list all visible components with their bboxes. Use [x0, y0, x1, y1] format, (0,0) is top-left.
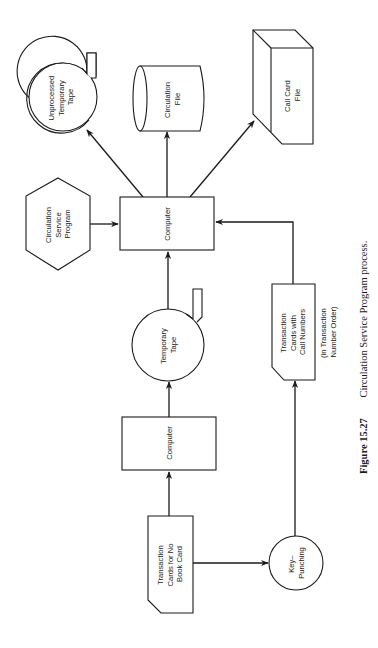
node-label-line: Key– — [287, 555, 296, 573]
node-label-line: Temporary — [159, 328, 168, 364]
node-label-line: Cards with — [289, 315, 298, 351]
svg-text:(in Transaction Number O: (in Transaction Number Order) — [319, 306, 338, 358]
disk-storage-icon — [140, 66, 204, 131]
node-label-line: File — [293, 89, 302, 101]
svg-text:Circulation Service: Circulation Service Program — [44, 205, 72, 243]
edge-computer-main-to-unprocessed-tape — [87, 130, 143, 197]
node-label-line: Tape — [169, 337, 178, 353]
node-computer-first: Computer — [122, 417, 216, 470]
node-label-line: Punching — [297, 547, 306, 579]
edge-cards-call-numbers-to-computer-main — [216, 222, 293, 284]
node-label-line: Circulation — [44, 207, 53, 243]
node-cards-no-book: Transaction Cards for No Book Card — [148, 516, 193, 613]
node-note-line: Number Order) — [329, 306, 338, 358]
node-label-line: Call Numbers — [298, 309, 307, 355]
svg-text:Transaction Cards with: Transaction Cards with Call Numbers — [279, 309, 307, 355]
node-label-line: Transaction — [156, 545, 165, 584]
edge-computer-main-to-call-card-file — [190, 121, 254, 197]
node-computer-main: Computer — [120, 197, 214, 250]
caption-number: Figure 15.27 — [358, 418, 369, 474]
node-label-line: File — [173, 93, 182, 105]
manual-operation-circle — [269, 536, 323, 590]
node-label-line: Computer — [163, 207, 172, 241]
node-label-line: Transaction — [279, 313, 288, 352]
node-label-line: Circulation — [163, 82, 172, 118]
node-cards-call-numbers: Transaction Cards with Call Numbers (in … — [272, 284, 338, 380]
node-note-line: (in Transaction — [319, 308, 328, 358]
node-call-card-file: Call Card File — [253, 30, 313, 144]
node-label-line: Program — [63, 209, 72, 238]
node-label-line: Computer — [165, 426, 174, 460]
node-label-line: Call Card — [283, 80, 292, 112]
node-unprocessed-tape: Unprocessed Temporary Tape — [17, 36, 97, 133]
node-label-line: Service — [54, 212, 63, 237]
node-label-line: Temporary — [57, 80, 66, 116]
svg-text:Figure 15.27 Circulation: Figure 15.27 Circulation Service Program… — [358, 241, 369, 474]
caption-text: Circulation Service Program process. — [358, 241, 369, 398]
node-label-line: Cards for No — [166, 544, 175, 587]
node-label-line: Tape — [66, 89, 75, 105]
node-label-line: Book Card — [175, 546, 184, 582]
flowchart-diagram: Unprocessed Temporary Tape Circulation F… — [0, 0, 378, 648]
svg-text:Computer: Computer — [163, 207, 172, 241]
node-circulation-file: Circulation File — [133, 66, 204, 131]
node-circulation-program: Circulation Service Program — [26, 178, 90, 270]
svg-text:Transaction Cards for No: Transaction Cards for No Book Card — [156, 541, 184, 586]
figure-caption: Figure 15.27 Circulation Service Program… — [358, 241, 369, 474]
svg-text:Computer: Computer — [165, 426, 174, 460]
node-label-line: Unprocessed — [47, 76, 56, 121]
node-key-punching: Key– Punching — [269, 536, 323, 590]
